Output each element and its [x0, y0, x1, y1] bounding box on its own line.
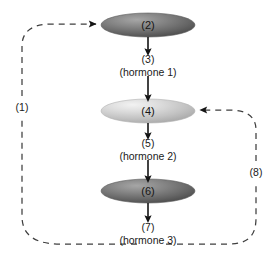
- gland-middle: [101, 99, 195, 123]
- feedback-loop-right-upper: [200, 110, 256, 161]
- gland-top: [101, 13, 195, 37]
- diagram-canvas: [0, 0, 276, 254]
- gland-middle-ellipse: [101, 99, 195, 123]
- gland-top-ellipse: [101, 13, 195, 37]
- gland-bottom: [101, 179, 195, 203]
- feedback-loop-left-upper: [22, 24, 96, 96]
- gland-bottom-ellipse: [101, 179, 195, 203]
- hormone-axis-diagram: (2) (4) (6) (3) (hormone 1) (5) (hormone…: [0, 0, 276, 254]
- feedback-loop-left-lower: [22, 118, 137, 244]
